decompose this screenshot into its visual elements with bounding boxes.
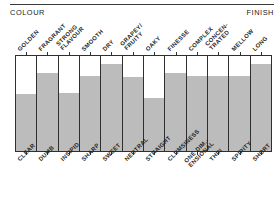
bar-fill: [16, 94, 36, 151]
bar-fill: [101, 64, 121, 151]
bar-cell[interactable]: [251, 56, 271, 151]
bar-cell[interactable]: [123, 56, 144, 151]
top-axis-label: FINESSE: [166, 28, 190, 52]
bar-cell[interactable]: [229, 56, 250, 151]
tasting-profile-figure: COLOUR FINISH GOLDENCLEARFRAGRANTDUMBSTR…: [0, 0, 280, 207]
bar-cell[interactable]: [208, 56, 229, 151]
bar-fill: [37, 73, 57, 151]
bar-cell[interactable]: [101, 56, 122, 151]
header-label-finish: FINISH: [246, 7, 274, 18]
top-axis-label: DRY: [102, 38, 116, 52]
bar-cell[interactable]: [37, 56, 58, 151]
bar-cell[interactable]: [16, 56, 37, 151]
bar-fill: [229, 76, 249, 151]
top-axis-label: OAKY: [145, 34, 163, 52]
top-axis-label: GOLDEN: [16, 28, 40, 52]
header-label-colour: COLOUR: [10, 7, 45, 18]
header-divider: [10, 4, 274, 5]
bar-fill: [208, 76, 228, 151]
bar-fill: [80, 76, 100, 151]
bar-cell[interactable]: [80, 56, 101, 151]
header-row: COLOUR FINISH: [10, 7, 274, 18]
bar-fill: [251, 64, 271, 151]
top-axis-label: LONG: [252, 34, 270, 52]
bar-cell[interactable]: [59, 56, 80, 151]
